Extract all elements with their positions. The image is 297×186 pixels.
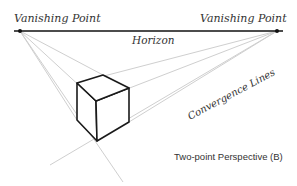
vanishing-point-left-label: Vanishing Point [14, 12, 101, 25]
convergence-lines-label: Convergence Lines [186, 66, 277, 121]
convergence-line [20, 31, 103, 75]
convergence-line [77, 31, 277, 83]
cube [77, 75, 129, 141]
vanishing-point-left-dot [18, 29, 22, 33]
two-point-perspective-diagram: Vanishing Point Vanishing Point Horizon … [0, 0, 297, 186]
vanishing-point-right-dot [275, 29, 279, 33]
diagram-caption: Two-point Perspective (B) [174, 151, 283, 162]
perspective-drawing: Vanishing Point Vanishing Point Horizon … [0, 0, 297, 186]
horizon-label: Horizon [131, 34, 175, 46]
vanishing-point-right-label: Vanishing Point [200, 12, 287, 25]
